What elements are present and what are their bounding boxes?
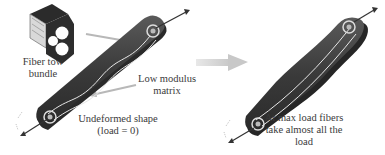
matrix-label: Low modulus matrix	[136, 73, 198, 97]
fiber-tow-line-2: bundle	[20, 68, 66, 80]
undeformed-line-2: (load = 0)	[70, 125, 166, 137]
undeformed-label: Undeformed shape (load = 0)	[70, 113, 166, 137]
max-load-line-1: At max load fibers	[256, 112, 352, 124]
fiber-tow-line-1: Fiber tow	[20, 56, 66, 68]
matrix-line-1: Low modulus	[136, 73, 198, 85]
max-load-line-2: take almost all the	[256, 124, 352, 136]
undeformed-line-1: Undeformed shape	[70, 113, 166, 125]
matrix-line-2: matrix	[136, 85, 198, 97]
max-load-label: At max load fibers take almost all the l…	[256, 112, 352, 148]
max-load-line-3: load	[256, 136, 352, 148]
transition-arrow	[196, 54, 248, 71]
fiber-tow-bundle-inset	[30, 4, 74, 64]
fiber-tow-label: Fiber tow bundle	[20, 56, 66, 80]
